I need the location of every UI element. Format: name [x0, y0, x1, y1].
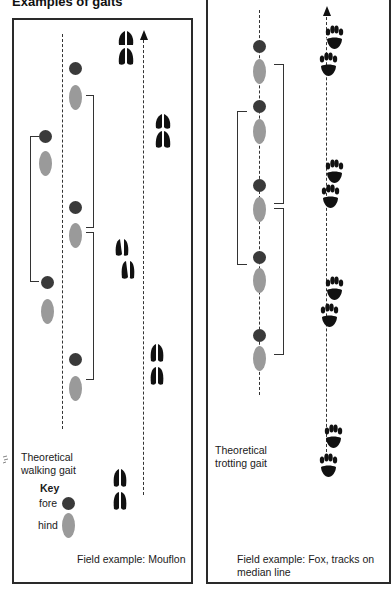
hind-print — [253, 197, 266, 222]
key-fore-label: fore — [39, 497, 57, 510]
direction-line — [143, 40, 144, 495]
walking-gait-panel: Theoretical walking gait Key fore hind F… — [12, 18, 193, 584]
fore-print — [253, 179, 266, 192]
stride-bracket — [237, 111, 247, 265]
paw-print-icon — [322, 25, 346, 51]
fore-print — [69, 201, 82, 214]
hind-print — [253, 268, 266, 293]
hind-print — [253, 346, 266, 371]
scribble-icon — [2, 455, 10, 465]
gait-label-line1: Theoretical — [21, 451, 73, 464]
hoof-print-icon — [115, 238, 137, 284]
stride-bracket — [274, 64, 284, 204]
hind-print — [41, 299, 54, 324]
paw-print-icon — [322, 159, 346, 185]
fore-print — [69, 62, 82, 75]
hind-print — [69, 85, 82, 110]
field-example-label: Field example: Mouflon — [77, 553, 186, 566]
paw-print-icon — [317, 303, 341, 329]
gait-label-line2: trotting gait — [215, 457, 267, 470]
hoof-print-icon — [148, 343, 166, 389]
stride-bracket — [86, 232, 94, 380]
median-line — [62, 34, 63, 429]
key-hind-swatch — [62, 513, 75, 538]
paw-print-icon — [322, 276, 346, 302]
paw-print-icon — [318, 184, 342, 210]
arrow-up-icon — [139, 30, 149, 42]
hind-print — [69, 223, 82, 248]
fore-print — [253, 251, 266, 264]
hind-print — [253, 59, 266, 84]
direction-line — [326, 12, 327, 452]
fore-print — [253, 100, 266, 113]
paw-print-icon — [321, 424, 345, 450]
fore-print — [253, 329, 266, 342]
paw-print-icon — [316, 52, 340, 78]
hind-print — [253, 119, 266, 144]
hind-print — [39, 151, 52, 176]
hoof-print-icon — [154, 113, 172, 149]
stray-mark — [2, 455, 8, 463]
paw-print-icon — [316, 453, 340, 479]
field-example-line2: median line — [237, 566, 291, 579]
fore-print — [39, 130, 52, 143]
gait-label-line2: walking gait — [21, 464, 76, 477]
gait-label-line1: Theoretical — [215, 444, 267, 457]
key-fore-swatch — [62, 497, 75, 510]
key-hind-label: hind — [38, 519, 58, 532]
fore-print — [41, 276, 54, 289]
hoof-print-icon — [117, 30, 135, 66]
hoof-print-icon — [111, 468, 129, 514]
stride-bracket — [30, 136, 39, 282]
arrow-up-icon — [322, 6, 332, 18]
diagram-title: Examples of gaits — [12, 0, 123, 9]
trotting-gait-panel: Theoretical trotting gait Field example:… — [206, 0, 391, 584]
stride-bracket — [86, 95, 94, 228]
fore-print — [253, 40, 266, 53]
field-example-line1: Field example: Fox, tracks on — [237, 553, 374, 566]
key-heading: Key — [40, 482, 59, 495]
stride-bracket — [274, 208, 284, 355]
hind-print — [69, 376, 82, 401]
fore-print — [69, 353, 82, 366]
